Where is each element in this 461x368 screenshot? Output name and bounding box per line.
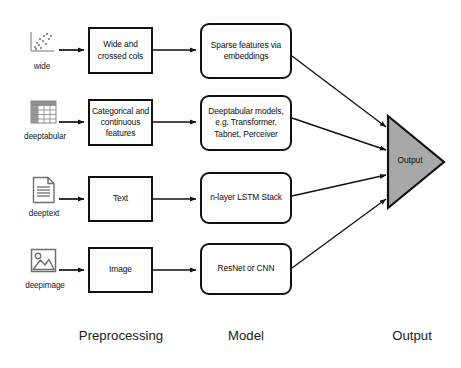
table-grid-icon [30,100,57,124]
model-box-sparse-embeddings[interactable]: Sparse features via embeddings [200,23,292,79]
source-label-wide: wide [22,62,62,71]
preprocessing-box-deeptabular-label: Categorical and continuous features [90,106,151,139]
column-label-output: Output [376,328,448,343]
preprocessing-box-deeptext[interactable]: Text [88,176,153,222]
column-label-preprocessing: Preprocessing [60,328,182,343]
source-label-deeptext: deeptext [18,209,70,218]
preprocessing-box-wide[interactable]: Wide and crossed cols [88,27,153,74]
model-box-resnet-cnn-label: ResNet or CNN [218,263,275,274]
model-box-lstm-label: n-layer LSTM Stack [210,192,282,203]
source-label-deeptabular: deeptabular [14,132,76,141]
model-box-deeptabular-label: Deeptabular models, e.g. Transformer, Ta… [202,106,290,139]
source-label-deepimage: deepimage [14,281,76,290]
preprocessing-box-deeptabular[interactable]: Categorical and continuous features [88,99,153,146]
model-box-lstm[interactable]: n-layer LSTM Stack [200,172,292,224]
preprocessing-box-deeptext-label: Text [113,193,128,204]
column-label-model: Model [204,328,288,343]
image-icon [30,248,57,274]
output-triangle-label: Output [386,155,434,165]
preprocessing-box-deepimage[interactable]: Image [88,247,153,293]
model-box-resnet-cnn[interactable]: ResNet or CNN [200,243,292,295]
document-icon [32,176,56,204]
diagram-canvas: wide deeptabular deeptext deepimage [0,0,461,368]
model-box-sparse-embeddings-label: Sparse features via embeddings [202,40,290,62]
scatter-plot-icon [28,30,56,56]
preprocessing-box-deepimage-label: Image [109,264,132,275]
model-box-deeptabular[interactable]: Deeptabular models, e.g. Transformer, Ta… [200,95,292,151]
preprocessing-box-wide-label: Wide and crossed cols [90,39,151,61]
